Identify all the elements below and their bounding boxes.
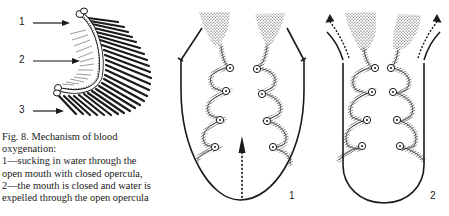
arch-label-3: 3 bbox=[19, 104, 25, 115]
caption-line: 2—the mouth is closed and water is bbox=[2, 180, 180, 192]
figure-caption: Fig. 8. Mechanism of blood oxygenation: … bbox=[2, 131, 180, 204]
diagram-1-inhalation bbox=[178, 12, 306, 200]
diagram-2-number: 2 bbox=[430, 190, 436, 201]
diagram-2-exhalation bbox=[324, 12, 443, 203]
caption-line: oxygenation: bbox=[2, 143, 180, 155]
caption-line: open mouth with closed opercula, bbox=[2, 168, 180, 180]
caption-line: 1—sucking in water through the bbox=[2, 155, 180, 167]
caption-line: Fig. 8. Mechanism of blood bbox=[2, 131, 180, 143]
caption-line: expelled through the open opercula bbox=[2, 192, 180, 204]
arch-label-1: 1 bbox=[19, 16, 25, 27]
diagram-1-number: 1 bbox=[289, 190, 295, 201]
arch-label-2: 2 bbox=[19, 54, 25, 65]
